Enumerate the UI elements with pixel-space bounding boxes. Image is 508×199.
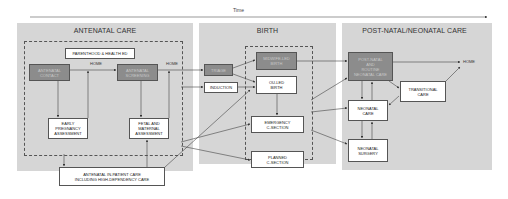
connector-arrows <box>0 0 508 199</box>
